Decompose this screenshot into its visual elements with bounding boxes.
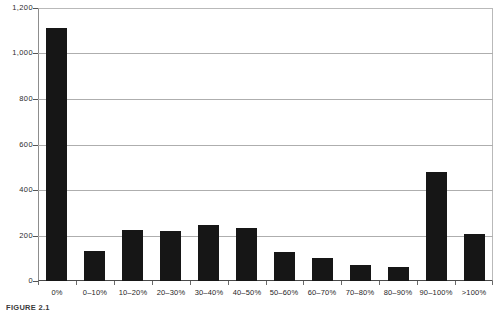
- y-axis: 02004006008001,0001,200: [0, 0, 33, 314]
- x-axis-tick-label: 0%: [38, 288, 76, 298]
- x-axis-tick-label: 20–30%: [152, 288, 190, 298]
- x-axis: 0%0–10%10–20%20–30%30–40%40–50%50–60%60–…: [38, 288, 493, 300]
- bar: [198, 225, 219, 281]
- x-axis-tick-label: 0–10%: [76, 288, 114, 298]
- y-axis-tick-label: 200: [1, 231, 33, 240]
- x-axis-tickmark: [114, 281, 115, 285]
- x-axis-tickmark: [76, 281, 77, 285]
- bar: [312, 258, 333, 281]
- x-axis-tick-label: 70–80%: [341, 288, 379, 298]
- x-axis-tick-label: 30–40%: [190, 288, 228, 298]
- x-axis-tickmark: [455, 281, 456, 285]
- bar-series: [38, 8, 493, 281]
- bar: [350, 265, 371, 281]
- y-axis-tick-label: 400: [1, 185, 33, 194]
- x-axis-tick-label: 50–60%: [265, 288, 303, 298]
- figure-caption: FIGURE 2.1: [6, 303, 50, 314]
- x-axis-tickmark: [38, 281, 39, 285]
- y-axis-tick-label: 0: [1, 276, 33, 285]
- x-axis-tickmark: [492, 281, 493, 285]
- x-axis-tickmark: [228, 281, 229, 285]
- bar: [160, 231, 181, 281]
- bar: [84, 251, 105, 281]
- bar: [236, 228, 257, 281]
- y-axis-tick-label: 1,000: [1, 48, 33, 57]
- bar-chart-figure: 02004006008001,0001,200 0%0–10%10–20%20–…: [0, 0, 497, 314]
- bar: [388, 267, 409, 281]
- x-axis-tick-label: 40–50%: [228, 288, 266, 298]
- x-axis-tickmark: [303, 281, 304, 285]
- x-axis-tick-label: >100%: [455, 288, 493, 298]
- bar: [122, 230, 143, 281]
- y-axis-tick-label: 600: [1, 140, 33, 149]
- bar: [274, 252, 295, 281]
- x-axis-tickmark: [190, 281, 191, 285]
- x-axis-tickmark: [379, 281, 380, 285]
- bar: [46, 28, 67, 281]
- x-axis-tickmarks: [38, 281, 493, 286]
- x-axis-tick-label: 10–20%: [114, 288, 152, 298]
- x-axis-tick-label: 80–90%: [379, 288, 417, 298]
- y-axis-tick-label: 1,200: [1, 3, 33, 12]
- x-axis-tick-label: 60–70%: [303, 288, 341, 298]
- bar: [426, 172, 447, 281]
- x-axis-tickmark: [152, 281, 153, 285]
- x-axis-tickmark: [266, 281, 267, 285]
- y-axis-tick-label: 800: [1, 94, 33, 103]
- bar: [464, 234, 485, 281]
- x-axis-tickmark: [417, 281, 418, 285]
- x-axis-tick-label: 90–100%: [417, 288, 455, 298]
- x-axis-tickmark: [341, 281, 342, 285]
